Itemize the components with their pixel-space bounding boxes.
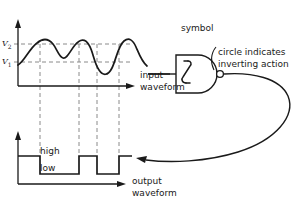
threshold-upper-label: V2: [2, 39, 12, 50]
output-waveform-trace: [18, 156, 132, 174]
threshold-lower-subscript: 1: [8, 61, 12, 68]
input-waveform-caption: input waveform: [140, 70, 185, 93]
input-x-axis-arrowhead: [126, 83, 135, 89]
output-low-label: low: [40, 163, 55, 174]
tie-lines-group: [40, 44, 119, 156]
input-y-axis-arrowhead: [15, 19, 21, 28]
output-y-axis-arrowhead: [15, 131, 21, 140]
output-waveform-caption: output waveform: [132, 176, 177, 199]
output-feedback-arrowhead: [136, 156, 147, 163]
threshold-upper-subscript: 2: [8, 43, 12, 50]
inverting-bubble-circle-icon: [217, 71, 224, 78]
inverting-action-annotation: circle indicates inverting action: [218, 47, 289, 70]
output-high-label: high: [40, 146, 60, 157]
symbol-label: symbol: [181, 23, 214, 34]
figure-canvas: symbol circle indicates inverting action…: [0, 0, 304, 209]
output-axes-group: [15, 131, 126, 187]
threshold-lower-label: V1: [2, 57, 12, 68]
output-x-axis-arrowhead: [117, 181, 126, 187]
